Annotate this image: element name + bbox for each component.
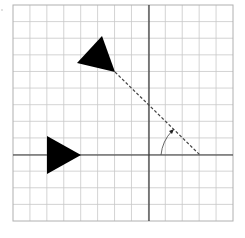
rotation-diagram: [0, 0, 245, 238]
stray-dot: [1, 9, 3, 11]
rotation-angle-arc: [161, 131, 172, 155]
rotation-dashed-line: [115, 72, 200, 155]
grid: [13, 5, 233, 221]
rotated-triangle: [77, 36, 115, 72]
grid-border: [13, 5, 233, 221]
